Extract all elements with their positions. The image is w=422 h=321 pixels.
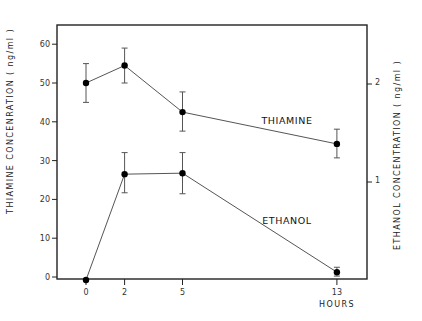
data-point (179, 109, 185, 115)
ethanol-series-label: ETHANOL (262, 215, 312, 226)
x-tick-label: 5 (180, 288, 185, 297)
ethanol-line (86, 173, 337, 280)
data-point (121, 62, 127, 68)
right-tick-label: 1 (375, 176, 380, 185)
x-tick-label: 13 (332, 288, 342, 297)
plot-frame (57, 25, 367, 279)
x-axis: 02513 (83, 279, 342, 297)
right-y-axis: 12 (367, 78, 380, 185)
left-tick-label: 50 (40, 79, 50, 88)
thiamine-series (83, 48, 340, 158)
x-tick-label: 0 (83, 288, 88, 297)
data-point (334, 141, 340, 147)
data-point (334, 269, 340, 275)
data-point (83, 277, 89, 283)
left-tick-label: 0 (45, 273, 50, 282)
x-tick-label: 2 (122, 288, 127, 297)
y-axis-left-label: THIAMINE CONCENRATION ( ng/ml ) (6, 28, 15, 215)
left-tick-label: 30 (40, 157, 50, 166)
y-axis-right-label: ETHANOL CONCENTRATION ( ng/ml ) (393, 60, 402, 250)
data-point (83, 80, 89, 86)
right-tick-label: 2 (375, 78, 380, 87)
thiamine-line (86, 66, 337, 144)
series-layer (83, 48, 340, 283)
left-tick-label: 40 (40, 118, 50, 127)
data-point (179, 170, 185, 176)
chart: 0102030405060 12 02513 THIAMINE CONCENRA… (0, 0, 422, 321)
data-point (121, 171, 127, 177)
thiamine-series-label: THIAMINE (260, 115, 312, 126)
left-tick-label: 60 (40, 40, 50, 49)
left-y-axis: 0102030405060 (40, 40, 57, 282)
left-tick-label: 20 (40, 195, 50, 204)
x-axis-label: HOURS (319, 300, 355, 309)
left-tick-label: 10 (40, 234, 50, 243)
